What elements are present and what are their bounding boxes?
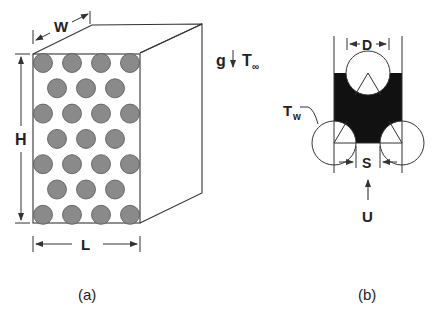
flow-label: U [362,208,373,225]
rod [63,104,82,123]
block-side-face [140,24,202,223]
ambient-temp-label: T [242,52,252,69]
rod [48,129,67,148]
rod [121,104,140,123]
diameter-label: D [362,37,372,53]
rod [106,180,125,199]
width-label: W [54,18,69,35]
rod [106,79,125,98]
rod [121,54,140,73]
height-label: H [15,131,27,148]
wall-temp-subscript: w [292,111,301,122]
gravity-label: g [216,52,226,69]
rod [34,155,53,174]
rod [63,155,82,174]
length-label: L [81,236,90,253]
rod [121,155,140,174]
rod [48,79,67,98]
caption-b: (b) [358,286,376,303]
figure-canvas: W H L g T ∞ (a) [0,0,434,311]
wall-temp-label: T [283,102,292,119]
spacing-label: S [362,155,371,171]
rod [77,129,96,148]
caption-a: (a) [78,286,96,303]
rod [92,205,111,224]
unit-cell [312,36,424,173]
ambient-temp-subscript: ∞ [252,61,259,72]
rod [77,180,96,199]
rod [34,54,53,73]
rod [92,104,111,123]
rod [121,205,140,224]
rod [34,205,53,224]
wall-temp-leader [300,107,318,124]
rod [92,54,111,73]
rod [34,104,53,123]
rod [63,54,82,73]
rod [92,155,111,174]
rod [48,180,67,199]
rod [106,129,125,148]
rod [63,205,82,224]
rod [77,79,96,98]
